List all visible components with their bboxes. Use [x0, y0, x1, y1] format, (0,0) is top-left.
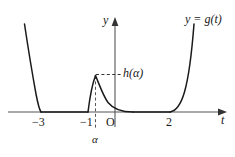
curve-left-branch: [25, 24, 42, 112]
curve-rise-to-peak: [88, 76, 96, 113]
t-axis-label: t: [221, 114, 224, 126]
curve-label: y = g(t): [185, 13, 222, 25]
origin-label: O: [106, 116, 115, 128]
y-axis-arrowhead: [112, 17, 119, 26]
curve-decay: [96, 76, 134, 113]
y-axis-label: y: [103, 14, 108, 26]
function-graph-figure: y t y = g(t) h(α) α −3 −1 O 2: [0, 0, 235, 157]
alpha-label: α: [92, 134, 98, 145]
x-tick-label-2: 2: [166, 116, 172, 128]
x-tick-label-minus-1: −1: [80, 116, 93, 128]
curve-right-branch: [170, 24, 194, 112]
function-curve: [25, 24, 195, 112]
y-axis: [112, 17, 119, 127]
x-tick-label-minus-3: −3: [32, 116, 45, 128]
peak-height-label: h(α): [123, 67, 143, 79]
